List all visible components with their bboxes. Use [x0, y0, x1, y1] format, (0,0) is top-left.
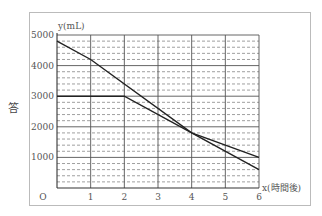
y-tick-label: 4000: [31, 61, 54, 71]
origin-label: O: [39, 192, 46, 202]
y-tick-label: 3000: [31, 91, 54, 101]
x-tick-label: 1: [88, 192, 94, 202]
y-tick-label: 5000: [31, 30, 54, 40]
x-tick-label: 4: [189, 192, 195, 202]
line-chart: 12345610002000300040005000Oy(mL)x(時間後): [0, 0, 322, 216]
y-tick-label: 1000: [31, 152, 54, 162]
x-tick-label: 3: [155, 192, 161, 202]
y-axis-label: y(mL): [57, 21, 85, 31]
y-tick-label: 2000: [31, 122, 54, 132]
x-axis-label: x(時間後): [262, 182, 301, 193]
x-tick-label: 2: [121, 192, 127, 202]
x-tick-label: 5: [222, 192, 228, 202]
x-tick-label: 6: [256, 192, 262, 202]
